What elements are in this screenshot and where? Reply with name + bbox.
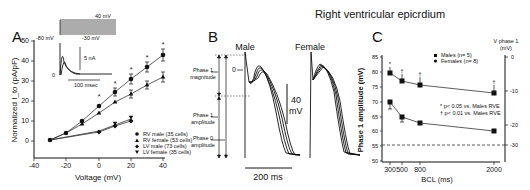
inset-zero-label: 0: [52, 72, 55, 78]
c-right-y-ticks: 0 -10 -20 -30: [505, 54, 518, 148]
a-legend-3: LV female (35 cells): [143, 149, 191, 155]
inset-time-scale: 100 msec: [74, 82, 98, 88]
svg-text:60: 60: [372, 128, 378, 134]
phase-arrows: [218, 55, 228, 158]
c-x-ticks: 300 500 800 2000: [384, 162, 502, 173]
svg-text:50: 50: [372, 158, 378, 164]
svg-text:0: 0: [97, 162, 101, 169]
a-y-label: Normalized I_to (pA/pF): [10, 57, 19, 142]
time-scale-label: 200 ms: [253, 172, 283, 182]
inset-holding-voltage: -80 mV: [36, 35, 54, 41]
svg-text:500: 500: [396, 166, 408, 173]
inset-bottom-voltage: -30 mV: [82, 35, 100, 41]
c-legend: Males (n= 5) Females (n= 8) * p< 0.05 vs…: [434, 52, 501, 116]
svg-text:50: 50: [21, 37, 29, 44]
c-series-females: [390, 73, 494, 93]
a-legend: RV male (35 cells) RV female (53 cells) …: [135, 131, 193, 155]
svg-text:85: 85: [372, 54, 378, 60]
panel-c: C 85 80 75 70 65 60 55 50 Phase 1 amplit…: [356, 28, 518, 184]
svg-text:20: 20: [127, 162, 135, 169]
svg-text:*: *: [130, 66, 133, 73]
svg-text:40: 40: [21, 57, 29, 64]
svg-text:Phase 1: Phase 1: [193, 112, 213, 118]
panel-a: A 0 10 20 30 40 50 -40 -20 0 20 40 Volta…: [10, 13, 193, 182]
svg-text:†: †: [492, 79, 495, 85]
a-markers-lv-male: [97, 119, 134, 135]
figure: Right ventricular epicrdium A 0 10 20 30…: [0, 0, 530, 190]
svg-text:0: 0: [511, 54, 514, 60]
svg-text:Phase 0: Phase 0: [193, 135, 213, 141]
voltage-scale-value: 40: [291, 95, 301, 105]
svg-text:*: *: [162, 41, 165, 48]
svg-text:magnitude: magnitude: [190, 74, 216, 80]
c-right-label-1: V phase 1: [494, 38, 519, 44]
svg-text:*: *: [146, 54, 149, 61]
svg-text:800: 800: [414, 166, 426, 173]
svg-text:-20: -20: [510, 122, 518, 128]
svg-text:*: *: [389, 61, 392, 67]
a-inset: 40 mV -80 mV -30 mV 5 nA 0 100 msec: [36, 13, 116, 88]
svg-text:0: 0: [25, 137, 29, 144]
svg-text:20: 20: [21, 97, 29, 104]
a-x-ticks: -40 -20 0 20 40: [29, 158, 167, 169]
c-legend-1: Females (n= 8): [441, 58, 478, 64]
label-pointers: [211, 72, 225, 140]
phase1-magnitude-label-1: Phase 1: [193, 67, 213, 73]
svg-text:30: 30: [21, 77, 29, 84]
panel-b-letter: B: [208, 28, 218, 45]
panel-c-letter: C: [372, 28, 383, 45]
figure-title: Right ventricular epicrdium: [315, 8, 445, 20]
svg-text:†: †: [418, 71, 421, 77]
svg-text:80: 80: [372, 69, 378, 75]
label-female: Female: [295, 42, 325, 52]
svg-text:†: †: [400, 68, 403, 74]
svg-text:70: 70: [372, 99, 378, 105]
inset-top-voltage: 40 mV: [95, 13, 111, 19]
label-male: Male: [235, 42, 255, 52]
voltage-scale-unit: mV: [289, 106, 303, 116]
svg-text:10: 10: [21, 117, 29, 124]
c-significance-0: * p< 0.05 vs. Males RVE: [440, 103, 500, 109]
svg-text:40: 40: [159, 162, 167, 169]
female-ap-traces: [310, 52, 360, 158]
c-left-y-ticks: 85 80 75 70 65 60 55 50: [372, 54, 382, 164]
svg-text:-10: -10: [510, 88, 518, 94]
a-series-lv-female: [50, 119, 131, 140]
svg-text:55: 55: [372, 143, 378, 149]
panel-b: B Male Female Phase 1 Phase 1 magnitude …: [190, 28, 360, 182]
male-ap-traces: [245, 52, 300, 158]
svg-text:65: 65: [372, 114, 378, 120]
a-y-ticks: 0 10 20 30 40 50: [21, 37, 34, 144]
inset-current-scale: 5 nA: [84, 55, 96, 61]
c-x-label: BCL (ms): [421, 175, 453, 184]
svg-text:*: *: [98, 93, 101, 100]
svg-text:-40: -40: [29, 162, 39, 169]
svg-text:-30: -30: [510, 142, 518, 148]
c-significance-1: † p< 0.01 vs. Males RVE: [440, 110, 501, 116]
svg-text:75: 75: [372, 84, 378, 90]
a-x-label: Voltage (mV): [75, 173, 122, 182]
svg-text:amplitude: amplitude: [191, 119, 215, 125]
svg-text:amplitude: amplitude: [191, 142, 215, 148]
c-right-label-2: (mV): [500, 45, 512, 51]
svg-text:-20: -20: [61, 162, 71, 169]
c-y-label: Phase 1 amplitude (mV): [356, 67, 365, 152]
svg-text:2000: 2000: [486, 166, 502, 173]
zero-mv-label: 0: [232, 66, 236, 73]
svg-text:300: 300: [384, 166, 396, 173]
svg-text:*: *: [114, 80, 117, 87]
